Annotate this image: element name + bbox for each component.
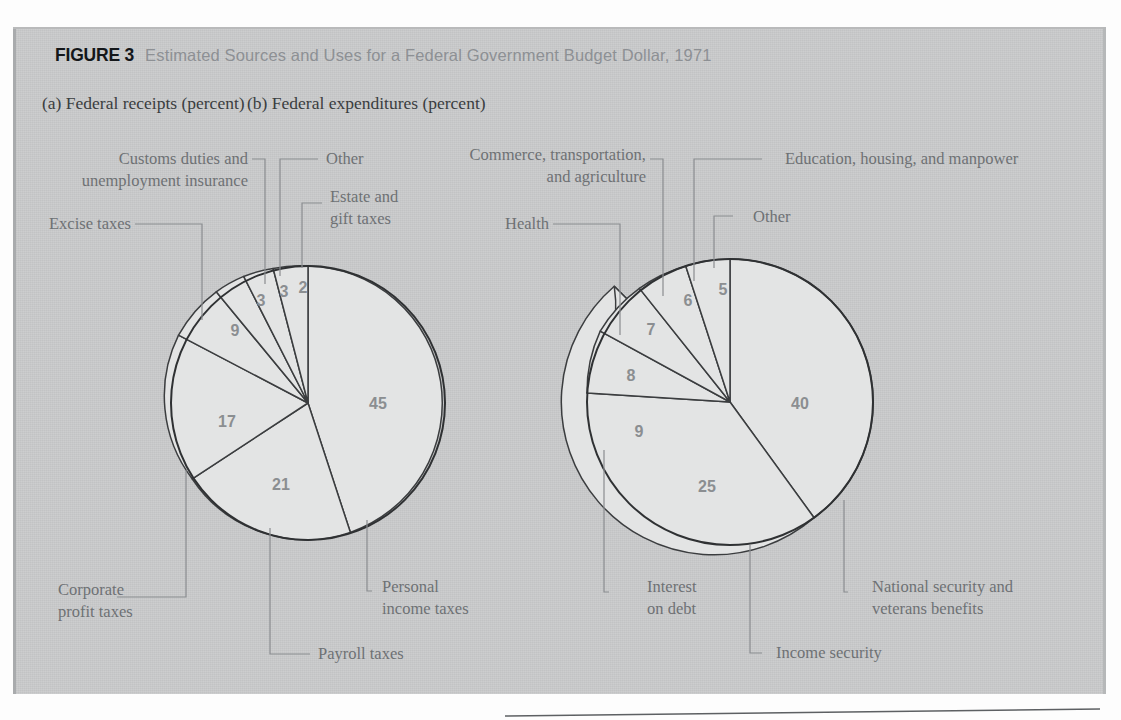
bottom-rule (505, 709, 1100, 716)
callout-national-line2: veterans benefits (872, 599, 983, 618)
callout-customs-line2: unemployment insurance (82, 171, 248, 190)
figure-stage: FIGURE 3 Estimated Sources and Uses for … (0, 0, 1121, 720)
pie-b-value-40: 40 (791, 395, 809, 412)
pie-b-value-9: 9 (635, 423, 644, 440)
leader-corporate-profit-taxes (117, 470, 186, 597)
pie-a-value-9: 9 (231, 322, 240, 339)
leader-other-a (280, 159, 318, 276)
callout-interest-line1: Interest (647, 577, 697, 596)
pie-a-value-3-customs: 3 (257, 292, 266, 309)
callout-other-a: Other (326, 149, 364, 168)
pie-a-value-45: 45 (369, 395, 387, 412)
callout-health: Health (505, 214, 550, 233)
callout-corporate-line1: Corporate (58, 580, 124, 599)
leader-income-security (750, 545, 762, 653)
pie-b-value-5: 5 (719, 281, 728, 298)
callout-personal-line2: income taxes (382, 599, 469, 618)
callout-education: Education, housing, and manpower (785, 149, 1019, 168)
callout-payroll-taxes: Payroll taxes (318, 644, 404, 663)
leader-customs-duties (252, 159, 265, 284)
pie-b-value-8: 8 (627, 367, 636, 384)
pie-b-value-7: 7 (647, 321, 656, 338)
callout-national-line1: National security and (872, 577, 1014, 596)
leader-estate-gift-taxes (302, 203, 322, 268)
pie-a-value-17: 17 (218, 413, 236, 430)
callout-customs-line1: Customs duties and (119, 149, 249, 168)
leader-personal-income-taxes (367, 520, 372, 591)
pie-a-value-3-other: 3 (280, 283, 289, 300)
leader-excise-taxes (135, 224, 202, 320)
callout-interest-line2: on debt (647, 599, 696, 618)
pie-b-value-6: 6 (684, 292, 693, 309)
callout-estate-line2: gift taxes (330, 209, 391, 228)
figure-artwork: 45 21 17 9 3 3 2 Customs dut (0, 0, 1121, 720)
pie-chart-b: 40 25 9 8 7 6 5 (561, 259, 873, 555)
callout-estate-line1: Estate and (330, 187, 399, 206)
pie-a-value-21: 21 (272, 476, 290, 493)
callout-personal-line1: Personal (382, 577, 439, 596)
callout-commerce-line2: and agriculture (547, 167, 646, 186)
callout-commerce-line1: Commerce, transportation, (470, 145, 646, 164)
pie-chart-a: 45 21 17 9 3 3 2 (164, 266, 445, 540)
leader-payroll-taxes (270, 528, 310, 654)
pie-b-value-25: 25 (698, 478, 716, 495)
leader-national-security (844, 500, 848, 592)
pie-a-value-2: 2 (299, 279, 308, 296)
callout-other-b: Other (753, 207, 791, 226)
callout-corporate-line2: profit taxes (58, 602, 133, 621)
callout-excise-taxes: Excise taxes (49, 214, 131, 233)
callout-income-security: Income security (776, 643, 883, 662)
